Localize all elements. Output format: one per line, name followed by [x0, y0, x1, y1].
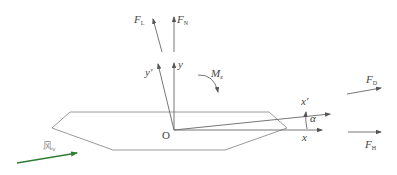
force-subscript: H: [372, 145, 376, 151]
force-normal-label: FN: [177, 14, 188, 26]
force-symbol: F: [366, 73, 373, 85]
flow-symbol: 风: [43, 141, 52, 151]
x-axis-label: x: [302, 132, 307, 143]
force-symbol: F: [365, 138, 372, 150]
moment-subscript: z: [220, 74, 223, 80]
force-drag-label: FD: [366, 74, 377, 86]
flow-arrow: [17, 153, 77, 163]
force-lift-label: FL: [134, 14, 144, 26]
y-prime-axis: [158, 64, 174, 130]
force-subscript: D: [373, 80, 377, 86]
flow-subscript: v: [52, 145, 56, 152]
angle-alpha-arc: [306, 112, 307, 129]
y-axis-label: y: [178, 59, 183, 70]
force-drag-arrow: [347, 88, 381, 94]
force-lift-arrow: [153, 19, 162, 52]
moment-label: Mz: [211, 68, 223, 80]
y-prime-axis-label: y': [145, 67, 152, 78]
origin-label: O: [162, 130, 170, 141]
force-horizontal-label: FH: [365, 139, 376, 151]
flow-label: 风v: [43, 142, 56, 152]
force-symbol: F: [134, 13, 141, 25]
angle-alpha-label: α: [310, 113, 316, 124]
force-symbol: F: [177, 13, 184, 25]
force-subscript: N: [184, 20, 188, 26]
force-diagram: [0, 0, 397, 175]
x-prime-axis-label: x': [301, 96, 308, 107]
moment-symbol: M: [211, 67, 220, 79]
force-subscript: L: [141, 20, 145, 26]
